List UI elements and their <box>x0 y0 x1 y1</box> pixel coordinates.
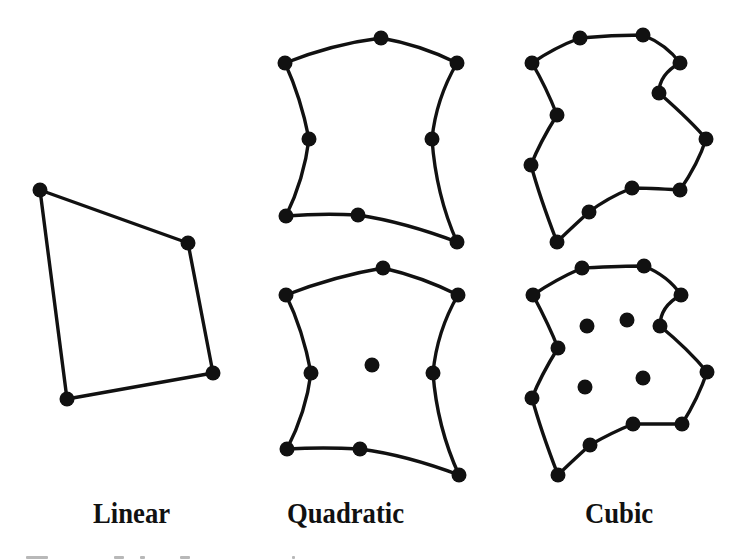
boundary-node <box>636 28 651 43</box>
cubic-16-node-element-nodes <box>525 259 715 483</box>
label-linear: Linear <box>93 496 170 530</box>
boundary-node <box>279 288 294 303</box>
boundary-node <box>551 468 566 483</box>
boundary-node <box>524 158 539 173</box>
boundary-node <box>673 183 688 198</box>
boundary-node <box>206 366 221 381</box>
boundary-node <box>525 56 540 71</box>
boundary-node <box>302 132 317 147</box>
boundary-node <box>551 341 566 356</box>
interior-node <box>620 313 635 328</box>
boundary-node <box>452 468 467 483</box>
boundary-node <box>304 366 319 381</box>
boundary-node <box>673 56 688 71</box>
boundary-node <box>279 209 294 224</box>
label-cubic: Cubic <box>585 496 653 530</box>
boundary-node <box>351 208 366 223</box>
finite-element-diagram <box>0 0 744 559</box>
boundary-node <box>637 259 652 274</box>
boundary-node <box>376 261 391 276</box>
boundary-node <box>33 183 48 198</box>
boundary-node <box>550 235 565 250</box>
boundary-node <box>674 288 689 303</box>
boundary-node <box>652 86 667 101</box>
boundary-node <box>374 31 389 46</box>
boundary-node <box>582 205 597 220</box>
boundary-node <box>60 392 75 407</box>
linear-element-nodes <box>33 183 221 407</box>
boundary-node <box>550 108 565 123</box>
interior-node <box>578 380 593 395</box>
boundary-node <box>426 366 441 381</box>
boundary-node <box>699 132 714 147</box>
boundary-node <box>573 31 588 46</box>
boundary-node <box>526 288 541 303</box>
cubic-12-node-element-nodes <box>524 28 714 250</box>
boundary-node <box>575 261 590 276</box>
label-quadratic: Quadratic <box>287 496 404 530</box>
boundary-node <box>451 288 466 303</box>
boundary-node <box>525 391 540 406</box>
boundary-node <box>625 181 640 196</box>
boundary-node <box>450 56 465 71</box>
boundary-node <box>181 236 196 251</box>
boundary-node <box>425 132 440 147</box>
boundary-node <box>700 365 715 380</box>
boundary-node <box>353 442 368 457</box>
interior-node <box>636 371 651 386</box>
boundary-node <box>450 235 465 250</box>
linear-element-boundary <box>40 190 213 399</box>
boundary-node <box>280 442 295 457</box>
boundary-node <box>626 417 641 432</box>
interior-node <box>365 358 380 373</box>
boundary-node <box>675 417 690 432</box>
boundary-node <box>278 56 293 71</box>
boundary-node <box>583 438 598 453</box>
interior-node <box>580 319 595 334</box>
cut-off-caption <box>0 553 744 559</box>
boundary-node <box>653 319 668 334</box>
